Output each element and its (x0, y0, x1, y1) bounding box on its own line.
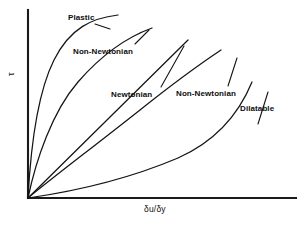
curve-label-non-newtonian-2: Non-Newtonian (176, 90, 236, 98)
plot-canvas (0, 0, 303, 226)
curve-label-dilatable: Dilatable (240, 105, 274, 113)
curve-label-newtonian: Newtonian (111, 91, 152, 99)
y-axis-label: τ (7, 72, 16, 76)
leader-plastic (95, 24, 110, 29)
leader-non-newtonian-2 (228, 58, 237, 86)
x-axis-label: δu/δy (144, 205, 166, 214)
rheology-chart: Plastic Non-Newtonian Newtonian Non-Newt… (0, 0, 303, 226)
curve-plastic (28, 15, 118, 198)
leader-newtonian (161, 46, 184, 87)
curve-label-plastic: Plastic (68, 14, 95, 22)
curve-dilatable (28, 82, 252, 198)
curve-non-newtonian-2 (28, 50, 221, 198)
curve-label-non-newtonian-1: Non-Newtonian (73, 48, 133, 56)
